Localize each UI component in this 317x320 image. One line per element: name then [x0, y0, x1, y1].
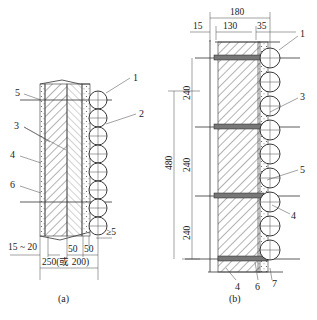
inner-layer — [82, 84, 90, 236]
dim-h-total-b: 480 — [164, 156, 174, 171]
dim-h2-b: 240 — [182, 158, 192, 173]
dim-left-a: 15 ~ 20 — [8, 242, 37, 252]
caption-a: (a) — [58, 293, 69, 305]
dim-total-a: 250(或 200) — [42, 256, 89, 268]
refractory-layer — [67, 84, 82, 236]
outer-plaster-layer — [40, 84, 45, 236]
leader-1a — [106, 78, 130, 93]
callout-4a: 4 — [10, 149, 15, 160]
callout-1b: 1 — [300, 28, 305, 39]
anchor-bolt-1 — [214, 55, 264, 60]
anchor-bolt-4 — [218, 256, 268, 261]
anchor-bolt-3 — [214, 193, 264, 198]
dim-w3-b: 35 — [257, 21, 267, 31]
callout-6a: 6 — [10, 179, 15, 190]
dim-w1-b: 15 — [193, 21, 203, 31]
leader-5a — [24, 94, 41, 100]
callout-4b: 4 — [291, 210, 296, 221]
water-tubes-b — [260, 48, 280, 260]
insulation-block-b — [218, 42, 260, 272]
callout-1a: 1 — [133, 72, 138, 83]
caption-b: (b) — [229, 293, 241, 305]
leader-4a — [20, 156, 41, 163]
callout-2a: 2 — [139, 108, 144, 119]
dim-w2-b: 130 — [223, 21, 238, 31]
dim-d2-a: 50 — [84, 244, 94, 254]
wall-b — [185, 40, 300, 272]
callout-5b: 5 — [300, 164, 305, 175]
dim-h3-b: 240 — [182, 226, 192, 241]
callout-6b: 6 — [255, 281, 260, 292]
dim-h1-b: 240 — [182, 86, 192, 101]
insulation-layer — [45, 84, 67, 236]
leader-2a — [106, 114, 136, 124]
figure-b: 180 15 130 35 240 240 240 480 1 3 5 4 4 … — [164, 7, 305, 305]
figure-a: 1 2 3 4 5 6 ≥5 15 ~ 20 50 50 250(或 20 — [8, 72, 144, 305]
callout-3b: 3 — [300, 91, 305, 102]
dim-total-width-b: 180 — [230, 7, 245, 17]
callout-3a: 3 — [14, 120, 19, 131]
callout-4b-bottom: 4 — [235, 281, 240, 292]
anchor-bolt-2 — [214, 124, 264, 129]
callout-7b: 7 — [272, 278, 277, 289]
dim-d1-a: 50 — [68, 244, 78, 254]
water-tubes-a — [89, 91, 107, 235]
furnace-wall-diagram: 1 2 3 4 5 6 ≥5 15 ~ 20 50 50 250(或 20 — [0, 0, 317, 320]
top-break-line — [40, 80, 90, 84]
dim-gap-a: ≥5 — [106, 227, 116, 237]
callout-5a: 5 — [15, 87, 20, 98]
leader-6a — [20, 186, 41, 193]
